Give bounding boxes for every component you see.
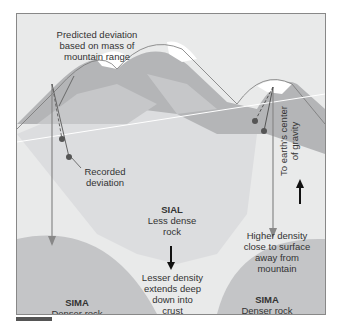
caption-marker	[16, 317, 52, 321]
center-gravity-label: To earth's center of gravity	[278, 86, 300, 196]
diagram-frame: Predicted deviation based on mass of mou…	[16, 13, 326, 315]
sima-left-title: SIMA	[37, 297, 117, 308]
higher-density-label: Higher density close to surface away fro…	[227, 230, 326, 274]
sima-right-desc: Denser rock	[241, 305, 292, 315]
predicted-deviation-label: Predicted deviation based on mass of mou…	[42, 29, 152, 62]
sial-label: SIAL Less dense rock	[132, 204, 212, 237]
sima-right-title: SIMA	[227, 294, 307, 305]
sial-desc: Less dense rock	[148, 215, 197, 237]
sima-left-label: SIMA Denser rock	[37, 297, 117, 315]
sima-left-desc: Denser rock	[51, 308, 102, 315]
sial-title: SIAL	[132, 204, 212, 215]
predicted-bob-left	[59, 136, 65, 142]
recorded-deviation-label: Recorded deviation	[70, 166, 140, 188]
lesser-density-label: Lesser density extends deep down into cr…	[125, 272, 220, 315]
sima-right-label: SIMA Denser rock	[227, 294, 307, 315]
